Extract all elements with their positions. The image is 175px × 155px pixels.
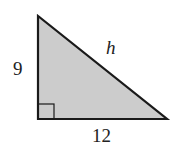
triangle-shape <box>38 16 167 119</box>
triangle-diagram <box>0 0 175 155</box>
horizontal-leg-label: 12 <box>92 126 111 145</box>
vertical-leg-label: 9 <box>13 59 23 78</box>
hypotenuse-label: h <box>106 38 116 57</box>
